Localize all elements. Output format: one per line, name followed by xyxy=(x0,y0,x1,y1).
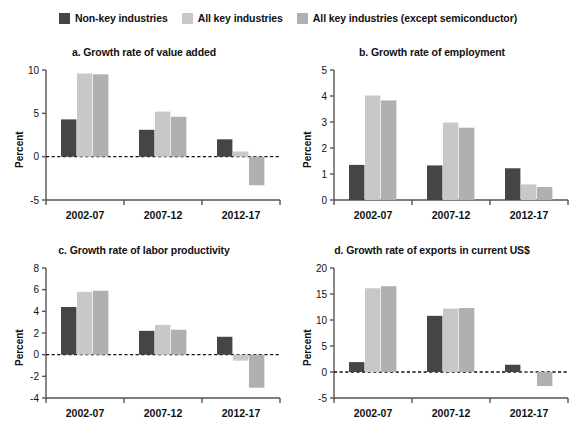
x-tick-label: 2012-17 xyxy=(510,209,549,221)
chart-panel-a: a. Growth rate of value added Percent -5… xyxy=(0,38,288,236)
y-tick-label: 0 xyxy=(33,151,39,162)
chart-panel-b: b. Growth rate of employment Percent 012… xyxy=(288,38,576,236)
y-tick-label: 2 xyxy=(321,143,327,154)
bar xyxy=(349,362,364,372)
bar xyxy=(459,308,474,372)
x-tick-label: 2012-17 xyxy=(222,209,261,221)
bar xyxy=(155,325,170,355)
legend-item-label: Non-key industries xyxy=(75,12,168,24)
bar xyxy=(233,151,248,156)
legend-item-label: All key industries xyxy=(198,12,283,24)
bar xyxy=(505,168,520,200)
x-tick-label: 2007-12 xyxy=(144,209,183,221)
bar xyxy=(155,112,170,157)
legend-item-label: All key industries (except semiconductor… xyxy=(313,12,517,24)
legend-swatch-icon xyxy=(59,13,70,24)
bar xyxy=(459,128,474,200)
bar xyxy=(249,157,264,186)
y-tick-label: -4 xyxy=(30,393,39,404)
x-tick-label: 2007-12 xyxy=(432,407,471,419)
bar xyxy=(249,355,264,388)
y-tick-label: 8 xyxy=(33,263,39,274)
x-tick-label: 2012-17 xyxy=(510,407,549,419)
bar xyxy=(93,74,108,156)
y-tick-label: -5 xyxy=(30,195,39,206)
y-tick-label: 10 xyxy=(316,315,328,326)
bar xyxy=(93,291,108,355)
bar xyxy=(365,288,380,372)
plot-area-b: 0123452002-072007-122012-17 xyxy=(288,38,576,236)
bar xyxy=(349,165,364,200)
bar xyxy=(139,331,154,355)
bar xyxy=(77,292,92,355)
legend-item: All key industries (except semiconductor… xyxy=(297,12,517,24)
y-tick-label: 2 xyxy=(33,328,39,339)
y-tick-label: -2 xyxy=(30,371,39,382)
x-tick-label: 2012-17 xyxy=(222,407,261,419)
y-tick-label: 5 xyxy=(321,341,327,352)
chart-panel-c: c. Growth rate of labor productivity Per… xyxy=(0,236,288,434)
y-tick-label: 20 xyxy=(316,263,328,274)
plot-area-c: -4-2024682002-072007-122012-17 xyxy=(0,236,288,434)
x-tick-label: 2002-07 xyxy=(354,209,393,221)
y-tick-label: 4 xyxy=(321,91,327,102)
chart-legend: Non-key industries All key industries Al… xyxy=(0,12,576,24)
bar xyxy=(381,100,396,200)
bar xyxy=(443,123,458,200)
bar xyxy=(537,187,552,200)
legend-item: Non-key industries xyxy=(59,12,168,24)
x-tick-label: 2002-07 xyxy=(354,407,393,419)
bar xyxy=(61,119,76,156)
x-tick-label: 2007-12 xyxy=(144,407,183,419)
y-tick-label: 1 xyxy=(321,169,327,180)
chart-panel-d: d. Growth rate of exports in current US$… xyxy=(288,236,576,434)
bar xyxy=(171,330,186,355)
bar xyxy=(505,365,520,372)
plot-area-d: -5051015202002-072007-122012-17 xyxy=(288,236,576,434)
legend-swatch-icon xyxy=(297,13,308,24)
bar xyxy=(365,95,380,200)
x-tick-label: 2007-12 xyxy=(432,209,471,221)
bar xyxy=(443,309,458,372)
bar xyxy=(217,139,232,156)
y-tick-label: 6 xyxy=(33,284,39,295)
chart-panel-grid: a. Growth rate of value added Percent -5… xyxy=(0,38,576,434)
bar xyxy=(521,184,536,200)
y-tick-label: 0 xyxy=(321,367,327,378)
y-tick-label: 0 xyxy=(33,349,39,360)
bar xyxy=(381,286,396,372)
bar xyxy=(61,307,76,355)
y-tick-label: 10 xyxy=(28,65,40,76)
bar xyxy=(171,117,186,157)
y-tick-label: 0 xyxy=(321,195,327,206)
bar xyxy=(537,372,552,386)
y-tick-label: 3 xyxy=(321,117,327,128)
y-tick-label: 4 xyxy=(33,306,39,317)
y-tick-label: 5 xyxy=(33,108,39,119)
y-tick-label: -5 xyxy=(318,393,327,404)
plot-area-a: -505102002-072007-122012-17 xyxy=(0,38,288,236)
x-tick-label: 2002-07 xyxy=(66,407,105,419)
x-tick-label: 2002-07 xyxy=(66,209,105,221)
bar xyxy=(427,165,442,200)
bar xyxy=(217,337,232,355)
legend-swatch-icon xyxy=(182,13,193,24)
y-tick-label: 15 xyxy=(316,289,328,300)
bar xyxy=(233,355,248,361)
y-tick-label: 5 xyxy=(321,65,327,76)
bar xyxy=(427,316,442,372)
legend-item: All key industries xyxy=(182,12,283,24)
bar xyxy=(77,73,92,156)
bar xyxy=(139,130,154,157)
